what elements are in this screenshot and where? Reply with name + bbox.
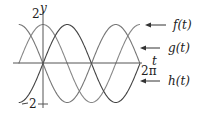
h-arrow xyxy=(140,79,160,84)
g-label: g(t) xyxy=(168,41,190,55)
f-label: f(t) xyxy=(172,18,192,32)
g-arrow xyxy=(140,46,160,51)
f-arrow xyxy=(145,23,166,28)
chart: 2 y 2 2π t f(t) g(t) h(t) xyxy=(0,0,201,123)
y-top-label: 2 xyxy=(32,7,40,21)
minus-sign xyxy=(22,103,28,104)
h-label: h(t) xyxy=(168,74,190,88)
y-axis-label: y xyxy=(39,1,47,15)
t-axis-label: t xyxy=(152,54,157,68)
y-bottom-label: 2 xyxy=(29,97,37,111)
